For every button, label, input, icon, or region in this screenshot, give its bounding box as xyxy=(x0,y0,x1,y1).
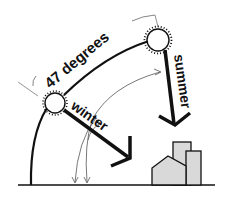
sun-icon-winter[interactable] xyxy=(43,91,67,115)
building-right xyxy=(186,151,201,185)
building-group xyxy=(152,142,201,185)
angle-dimension-tick-right xyxy=(155,15,158,27)
sun-angle-diagram: 47 degrees winter summer xyxy=(0,0,228,199)
sun-icon-summer[interactable] xyxy=(145,27,172,54)
angle-dimension-tick-left xyxy=(18,82,38,96)
sun-path-arc-lower xyxy=(31,108,47,185)
summer-label: summer xyxy=(171,53,195,110)
angle-label: 47 degrees xyxy=(41,28,112,91)
